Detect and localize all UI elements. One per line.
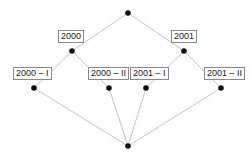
label-2001-i: 2001 – I — [130, 67, 169, 80]
edge-2001-i-bottom — [128, 88, 146, 146]
node-2000-i — [31, 85, 37, 91]
node-2000 — [69, 48, 75, 54]
node-2001-ii — [218, 85, 224, 91]
edge-2001-ii-bottom — [128, 88, 221, 146]
node-2001 — [181, 48, 187, 54]
node-bottom — [125, 143, 131, 149]
label-2001-ii: 2001 – II — [204, 67, 245, 80]
label-2000: 2000 — [58, 30, 84, 43]
node-2000-ii — [106, 85, 112, 91]
edge-2000-ii-bottom — [109, 88, 128, 146]
label-2000-ii: 2000 – II — [88, 67, 129, 80]
edge-2000-i-bottom — [34, 88, 128, 146]
node-2001-i — [143, 85, 149, 91]
label-2000-i: 2000 – I — [13, 67, 52, 80]
node-top — [125, 10, 131, 16]
label-2001: 2001 — [171, 30, 197, 43]
